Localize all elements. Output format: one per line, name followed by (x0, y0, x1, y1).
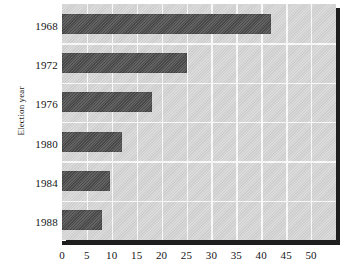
y-axis-tick-label: 1988 (14, 216, 58, 228)
x-axis-line (62, 241, 340, 245)
bar (62, 171, 110, 191)
x-axis-tick-label: 50 (294, 249, 328, 261)
plot-area (62, 4, 336, 240)
y-axis-tick-label: 1980 (14, 138, 58, 150)
bar (62, 53, 187, 73)
gridline-horizontal (62, 43, 336, 44)
gridline-horizontal (62, 201, 336, 202)
bar (62, 132, 122, 152)
gridline-horizontal (62, 161, 336, 162)
x-axis-tick-labels: 05101520253035404550 (62, 249, 336, 269)
bar (62, 210, 102, 230)
y-axis-tick-label: 1976 (14, 98, 58, 110)
gridline-horizontal (62, 122, 336, 123)
gridline-horizontal (62, 83, 336, 84)
y-axis-tick-labels: 196819721976198019841988 (14, 6, 58, 238)
y-axis-tick-label: 1972 (14, 59, 58, 71)
y-axis-tick-label: 1984 (14, 177, 58, 189)
bar (62, 92, 152, 112)
y-axis-tick-label: 1968 (14, 20, 58, 32)
bar (62, 14, 271, 34)
bar-chart: Election year 196819721976198019841988 0… (0, 0, 343, 275)
